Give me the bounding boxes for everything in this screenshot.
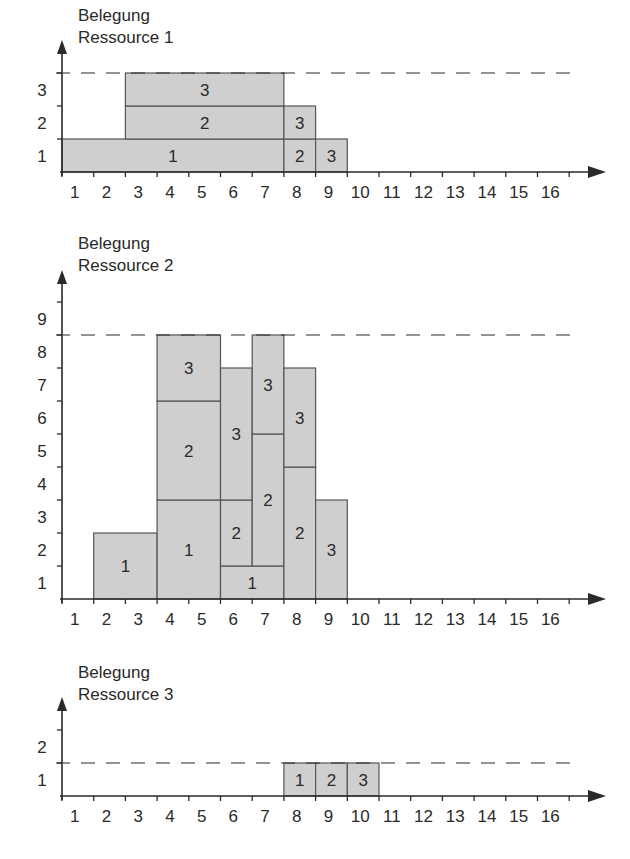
x-tick-label: 16	[541, 610, 560, 629]
x-tick-label: 12	[414, 807, 433, 826]
x-tick-label: 9	[324, 183, 333, 202]
x-tick-label: 14	[477, 807, 496, 826]
y-tick-label: 4	[37, 475, 46, 494]
x-tick-label: 5	[197, 183, 206, 202]
occupancy-blocks: 123	[284, 763, 379, 796]
job-label: 3	[232, 425, 241, 444]
job-label: 1	[184, 541, 193, 560]
x-tick-label: 10	[351, 183, 370, 202]
job-label: 2	[263, 491, 272, 510]
resource-occupancy-charts: 12323312312345678910111213141516Belegung…	[0, 0, 630, 859]
x-tick-label: 15	[509, 183, 528, 202]
y-tick-label: 2	[37, 114, 46, 133]
chart-title: Belegung	[78, 234, 150, 253]
x-tick-label: 11	[383, 610, 401, 629]
x-tick-label: 8	[292, 183, 301, 202]
job-label: 2	[232, 524, 241, 543]
x-tick-label: 7	[260, 610, 269, 629]
job-label: 1	[295, 771, 304, 790]
x-tick-label: 15	[509, 807, 528, 826]
chart-title: Belegung	[78, 6, 150, 25]
chart-resource-3: 1231212345678910111213141516BelegungRess…	[37, 663, 606, 826]
y-tick-label: 2	[37, 541, 46, 560]
chart-resource-1: 12323312312345678910111213141516Belegung…	[37, 6, 606, 202]
x-tick-label: 4	[165, 183, 174, 202]
job-label: 3	[327, 541, 336, 560]
x-tick-label: 15	[509, 610, 528, 629]
x-tick-label: 4	[165, 610, 174, 629]
x-tick-label: 12	[414, 183, 433, 202]
x-tick-label: 2	[102, 610, 111, 629]
x-tick-label: 1	[70, 610, 79, 629]
x-tick-label: 13	[446, 807, 465, 826]
job-label: 3	[295, 114, 304, 133]
x-axis-arrow-icon	[588, 790, 606, 802]
job-label: 3	[263, 376, 272, 395]
x-tick-label: 9	[324, 610, 333, 629]
y-tick-label: 9	[37, 310, 46, 329]
job-label: 3	[200, 81, 209, 100]
job-label: 2	[184, 442, 193, 461]
y-tick-label: 3	[37, 81, 46, 100]
job-label: 2	[327, 771, 336, 790]
x-tick-label: 16	[541, 807, 560, 826]
chart-title: Belegung	[78, 663, 150, 682]
chart-title: Ressource 3	[78, 685, 173, 704]
y-tick-label: 6	[37, 409, 46, 428]
y-tick-label: 8	[37, 343, 46, 362]
x-tick-label: 13	[446, 610, 465, 629]
y-axis-arrow-icon	[57, 697, 67, 711]
chart-title: Ressource 2	[78, 256, 173, 275]
job-label: 3	[184, 359, 193, 378]
x-tick-label: 3	[134, 610, 143, 629]
y-tick-label: 7	[37, 376, 46, 395]
x-tick-label: 7	[260, 183, 269, 202]
x-tick-label: 10	[351, 610, 370, 629]
x-tick-label: 16	[541, 183, 560, 202]
job-label: 1	[121, 557, 130, 576]
x-axis-arrow-icon	[588, 593, 606, 605]
job-label: 3	[295, 409, 304, 428]
job-label: 2	[295, 147, 304, 166]
chart-resource-2: 1123123232331234567891234567891011121314…	[37, 234, 606, 629]
chart-title: Ressource 1	[78, 28, 173, 47]
x-tick-label: 1	[70, 183, 79, 202]
x-tick-label: 3	[134, 183, 143, 202]
x-tick-label: 14	[477, 183, 496, 202]
y-tick-label: 1	[37, 771, 46, 790]
y-tick-label: 5	[37, 442, 46, 461]
job-label: 1	[168, 147, 177, 166]
occupancy-blocks: 123233	[62, 73, 347, 172]
x-tick-label: 2	[102, 807, 111, 826]
x-tick-label: 11	[383, 183, 401, 202]
x-tick-label: 13	[446, 183, 465, 202]
job-label: 2	[295, 524, 304, 543]
x-axis-arrow-icon	[588, 166, 606, 178]
x-tick-label: 7	[260, 807, 269, 826]
x-tick-label: 5	[197, 610, 206, 629]
x-tick-label: 11	[383, 807, 401, 826]
x-tick-label: 8	[292, 610, 301, 629]
job-label: 1	[247, 574, 256, 593]
x-tick-label: 5	[197, 807, 206, 826]
x-tick-label: 10	[351, 807, 370, 826]
x-tick-label: 9	[324, 807, 333, 826]
x-tick-label: 6	[229, 610, 238, 629]
job-label: 3	[358, 771, 367, 790]
job-label: 3	[327, 147, 336, 166]
x-tick-label: 3	[134, 807, 143, 826]
x-tick-label: 14	[477, 610, 496, 629]
x-tick-label: 6	[229, 807, 238, 826]
job-label: 2	[200, 114, 209, 133]
x-tick-label: 2	[102, 183, 111, 202]
x-tick-label: 4	[165, 807, 174, 826]
x-tick-label: 1	[70, 807, 79, 826]
y-axis-arrow-icon	[57, 270, 67, 284]
y-tick-label: 2	[37, 738, 46, 757]
y-tick-label: 3	[37, 508, 46, 527]
x-tick-label: 12	[414, 610, 433, 629]
y-tick-label: 1	[37, 574, 46, 593]
y-tick-label: 1	[37, 147, 46, 166]
occupancy-blocks: 112312323233	[94, 335, 348, 599]
y-axis-arrow-icon	[57, 40, 67, 54]
